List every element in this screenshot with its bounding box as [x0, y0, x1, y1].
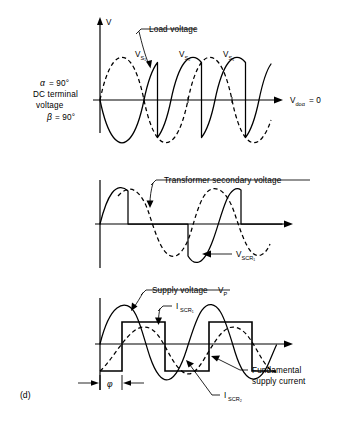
side-note-line3: voltage: [36, 101, 64, 110]
peak-label-3-sub: S₁: [229, 55, 235, 61]
supply-voltage-label-sub: P: [224, 291, 228, 297]
phi-dimension-marker: φ: [78, 375, 144, 390]
iscr2-label-sub: SCR₂: [228, 396, 242, 402]
peak-label-2-sub: S₂: [185, 55, 191, 61]
fundamental-current-label-line1: Fundamental: [252, 366, 301, 375]
callout-load-voltage: [136, 29, 196, 69]
panel-supply-current: Supply voltage V P I SCR₁ Fundamental su…: [78, 286, 306, 402]
panel3-x-axis-arrowhead: [284, 341, 293, 348]
iscr1-label: I SCR₁: [176, 302, 194, 313]
x-axis-arrowhead: [274, 97, 283, 104]
v-axis: [97, 17, 103, 133]
iscr2-label-main: I: [224, 391, 226, 400]
callout-vscr1: [202, 251, 232, 258]
panel3-x-axis: [95, 341, 293, 348]
transformer-secondary-dashed: [118, 189, 270, 257]
callout-iscr2: [186, 360, 220, 395]
x-axis-label-group: V doα = 0: [290, 96, 321, 107]
callout-load-voltage-label: Load voltage: [149, 25, 198, 34]
side-note-alpha-symbol: α: [40, 78, 46, 88]
panel2-x-axis-arrowhead: [284, 221, 293, 228]
vscr1-label: V SCR₁: [236, 250, 255, 261]
side-note-line2: DC terminal: [33, 90, 78, 99]
side-note-beta-symbol: β: [46, 112, 52, 122]
callout-arrowhead: [146, 60, 152, 69]
supply-voltage-label-main: Supply voltage: [152, 286, 208, 295]
callout-vscr1-arrowhead: [202, 251, 211, 258]
callout2-arrowhead: [147, 201, 154, 209]
panel-load-voltage: V Load voltage V S₁ V S₂: [33, 17, 321, 143]
side-note-dc-terminal-voltage: α = 90° DC terminal voltage β = 90°: [33, 78, 78, 122]
waveform-figure: V Load voltage V S₁ V S₂: [0, 0, 347, 429]
vscr1-label-sub: SCR₁: [242, 255, 256, 261]
callout-iscr2-arrowhead: [186, 360, 194, 368]
callout-fundamental-current: [211, 356, 248, 371]
fundamental-supply-current-dashed: [100, 327, 276, 374]
iscr2-label: I SCR₂: [224, 391, 242, 402]
callout-transformer-secondary-label: Transformer secondary voltage: [164, 176, 282, 185]
panel-transformer-secondary: Transformer secondary voltage V SCR₁: [95, 176, 310, 268]
side-note-alpha-value: = 90°: [49, 79, 69, 88]
phi-arrow-left: [123, 380, 131, 386]
phi-symbol: φ: [107, 379, 113, 389]
peak-label-3: V S₁: [223, 50, 234, 61]
figure-caption: (d): [20, 390, 31, 400]
v-axis-arrowhead: [97, 17, 103, 25]
peak-label-1-sub: S₁: [141, 55, 147, 61]
phi-arrow-right: [91, 380, 99, 386]
vscr1-waveform: [100, 188, 282, 263]
supply-voltage-waveform: [100, 305, 277, 380]
side-note-beta-value: = 90°: [55, 113, 75, 122]
iscr1-label-main: I: [176, 302, 178, 311]
supply-voltage-label: Supply voltage V P: [152, 286, 228, 297]
fundamental-current-label-line2: supply current: [252, 377, 306, 386]
x-axis-label-tail: = 0: [309, 96, 321, 105]
callout-fundamental-arrowhead: [211, 356, 220, 362]
peak-label-2: V S₂: [179, 50, 190, 61]
v-axis-label: V: [106, 18, 112, 27]
iscr1-label-sub: SCR₁: [180, 307, 194, 313]
x-axis-label-sub: doα: [296, 101, 306, 107]
